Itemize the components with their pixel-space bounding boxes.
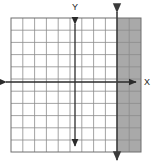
x-axis-label: X bbox=[144, 77, 150, 87]
coordinate-grid-figure: X Y bbox=[0, 0, 157, 168]
graph-canvas: X Y bbox=[0, 0, 157, 168]
y-axis-label: Y bbox=[72, 2, 78, 12]
